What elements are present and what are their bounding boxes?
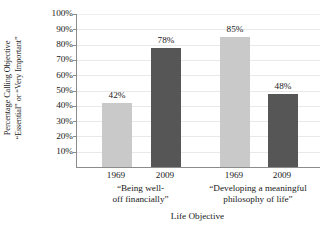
y-axis-tick-label: 100% (30, 9, 73, 18)
y-axis-tick (73, 45, 77, 46)
y-axis-tick-label: 90% (30, 25, 73, 34)
y-axis-tick (73, 75, 77, 76)
bar-chart-figure: Percentage Calling Objective “Essential”… (0, 0, 331, 227)
x-axis-category-labels: 1969200919692009 (76, 170, 319, 182)
y-axis-title: Percentage Calling Objective “Essential”… (0, 8, 26, 168)
x-axis-category-label: 2009 (145, 170, 185, 180)
y-axis-tick-label: 30% (30, 117, 73, 126)
bar-value-label: 78% (146, 36, 186, 45)
y-axis-tick (73, 152, 77, 153)
x-axis-group-label: “Developing a meaningfulphilosophy of li… (183, 183, 331, 205)
y-axis-tick-labels: 100%90%80%70%60%50%40%30%20%10% (30, 14, 73, 167)
y-axis-title-line1: Percentage Calling Objective (3, 36, 14, 139)
x-axis-group-label-line2: philosophy of life” (183, 194, 331, 205)
y-axis-tick (73, 60, 77, 61)
y-axis-tick-label: 80% (30, 40, 73, 49)
bar-value-label: 85% (215, 25, 255, 34)
y-axis-tick-label: 10% (30, 147, 73, 156)
bar-developi-1969 (220, 37, 250, 167)
x-axis-category-label: 1969 (214, 170, 254, 180)
bar-developi-2009 (268, 94, 298, 167)
gridline (77, 29, 320, 30)
y-axis-tick (73, 106, 77, 107)
x-axis-category-label: 2009 (262, 170, 302, 180)
y-axis-tick (73, 14, 77, 15)
gridline (77, 60, 320, 61)
x-axis-title: Life Objective (76, 211, 319, 221)
y-axis-title-line2: “Essential” or “Very Important” (13, 36, 24, 139)
y-axis-tick-label: 40% (30, 101, 73, 110)
y-axis-tick-label: 60% (30, 71, 73, 80)
bar-value-label: 42% (97, 91, 137, 100)
gridline (77, 45, 320, 46)
y-axis-tick-label: 70% (30, 55, 73, 64)
y-axis-tick (73, 91, 77, 92)
plot-area: 42%78%85%48% (76, 14, 320, 168)
y-axis-tick-label: 50% (30, 86, 73, 95)
x-axis-group-labels: “Being well-off financially”“Developing … (76, 183, 319, 209)
y-axis-tick (73, 121, 77, 122)
bar-beingwel-2009 (151, 48, 181, 167)
bar-beingwel-1969 (102, 103, 132, 167)
x-axis-category-label: 1969 (96, 170, 136, 180)
gridline (77, 75, 320, 76)
x-axis-group-label-line1: “Developing a meaningful (183, 183, 331, 194)
gridline (77, 14, 320, 15)
y-axis-tick-label: 20% (30, 132, 73, 141)
y-axis-tick (73, 136, 77, 137)
y-axis-tick (73, 29, 77, 30)
bar-value-label: 48% (263, 82, 303, 91)
